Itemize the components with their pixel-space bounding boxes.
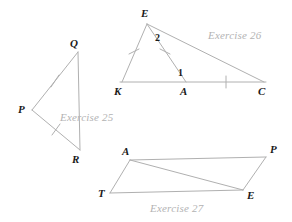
segment-ek bbox=[122, 24, 147, 82]
vertex-label-t: T bbox=[98, 188, 105, 199]
angle-label-2: 2 bbox=[155, 33, 160, 43]
segment-te bbox=[110, 190, 243, 193]
vertex-label-p: P bbox=[18, 104, 25, 115]
vertex-label-q: Q bbox=[70, 38, 78, 49]
tick-mark-ea bbox=[160, 49, 170, 54]
vertex-label-e-lower: E bbox=[247, 190, 254, 201]
exercise25-triangle bbox=[32, 52, 80, 150]
vertex-label-e-upper: E bbox=[141, 8, 148, 19]
geometry-figure-sheet: Q P R E K A C 2 1 A P T E Exercise 25 Ex… bbox=[0, 0, 292, 222]
diagonal-ae bbox=[130, 160, 243, 190]
vertex-label-r: R bbox=[72, 154, 79, 165]
caption-exercise-26: Exercise 26 bbox=[208, 30, 261, 41]
tick-mark-pr bbox=[52, 124, 60, 135]
vertex-label-p-lower: P bbox=[270, 144, 277, 155]
caption-exercise-25: Exercise 25 bbox=[60, 112, 113, 123]
segment-ta bbox=[110, 160, 130, 193]
vertex-label-a-lower: A bbox=[122, 146, 129, 157]
exercise27-parallelogram bbox=[110, 157, 266, 193]
segment-ap bbox=[130, 157, 266, 160]
vertex-label-a-upper: A bbox=[180, 86, 187, 97]
vertex-label-c: C bbox=[258, 86, 265, 97]
tick-mark-pq bbox=[51, 75, 59, 87]
segment-qr bbox=[78, 52, 80, 150]
caption-exercise-27: Exercise 27 bbox=[150, 203, 203, 214]
angle-label-1: 1 bbox=[178, 68, 183, 78]
vertex-label-k: K bbox=[114, 86, 121, 97]
segment-pe bbox=[243, 157, 266, 190]
